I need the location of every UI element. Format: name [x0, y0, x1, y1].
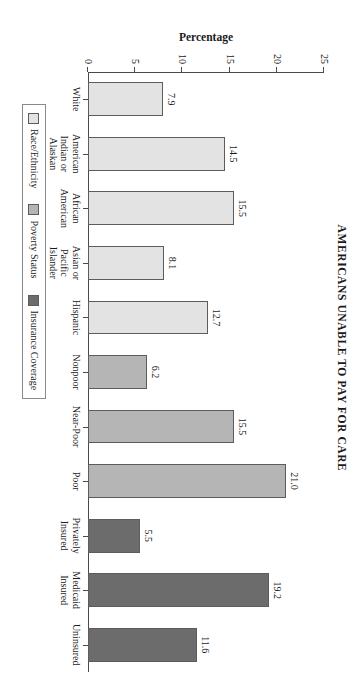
x-axis-tick — [83, 99, 88, 100]
x-axis-tick — [83, 317, 88, 318]
bar-slot[interactable] — [88, 410, 324, 444]
bar-slot[interactable] — [88, 82, 324, 116]
x-axis-category-label: MedicaidInsured — [59, 563, 82, 618]
bar[interactable] — [88, 628, 198, 662]
bar[interactable] — [88, 137, 225, 171]
y-axis-tick-label: 0 — [83, 38, 93, 64]
x-axis-tick — [83, 590, 88, 591]
bar-value-label: 6.2 — [150, 366, 160, 379]
bar[interactable] — [88, 464, 286, 498]
bar-value-label: 15.5 — [237, 200, 247, 218]
x-axis-category-label: Hispanic — [71, 290, 83, 345]
category-label-line: White — [71, 72, 83, 127]
x-axis-category-label: Uninsured — [71, 617, 83, 672]
x-axis-category-label: Asian orPacificIslander — [48, 236, 83, 291]
y-axis-tick-label: 20 — [272, 38, 282, 64]
x-axis-tick — [83, 372, 88, 373]
bar-value-label: 8.1 — [167, 257, 177, 270]
category-label-line: Insured — [59, 508, 71, 563]
x-axis-tick — [83, 536, 88, 537]
legend-item[interactable]: Race/Ethnicity — [29, 113, 40, 188]
bar-value-label: 19.2 — [272, 581, 282, 599]
category-label-line: Uninsured — [71, 617, 83, 672]
plot-area: Percentage 0510152025 7.914.515.58.112.7… — [88, 72, 324, 672]
bar[interactable] — [88, 519, 140, 553]
category-label-line: Alaskan — [48, 127, 60, 182]
x-axis-category-label: PrivatelyInsured — [59, 508, 82, 563]
legend-item[interactable]: Poverty Status — [29, 204, 40, 278]
category-label-line: African — [71, 181, 83, 236]
x-axis-category-label: Poor — [71, 454, 83, 509]
category-label-line: American — [71, 127, 83, 182]
bar[interactable] — [88, 191, 234, 225]
bar-slot[interactable] — [88, 301, 324, 335]
bar-value-label: 12.7 — [211, 309, 221, 327]
x-axis-category-label: White — [71, 72, 83, 127]
legend-label: Insurance Coverage — [29, 311, 39, 391]
x-axis-category-label: Nonpoor — [71, 345, 83, 400]
bar-value-label: 5.5 — [143, 529, 153, 542]
legend-label: Poverty Status — [29, 220, 39, 278]
bar-series: 7.914.515.58.112.76.215.521.05.519.211.6 — [88, 72, 324, 672]
category-label-line: Insured — [59, 563, 71, 618]
category-label-line: Poor — [71, 454, 83, 509]
bar-slot[interactable] — [88, 246, 324, 280]
rotated-figure-wrapper: AMERICANS UNABLE TO PAY FOR CARE Percent… — [0, 0, 350, 696]
category-label-line: Near-Poor — [71, 399, 83, 454]
y-axis-tick-label: 25 — [319, 38, 329, 64]
chart-legend: Race/EthnicityPoverty StatusInsurance Co… — [22, 104, 46, 399]
bar-slot[interactable] — [88, 573, 324, 607]
bar-value-label: 7.9 — [166, 93, 176, 106]
legend-swatch-icon — [29, 113, 40, 124]
category-label-line: Privately — [71, 508, 83, 563]
bar-slot[interactable] — [88, 191, 324, 225]
x-axis-tick — [83, 645, 88, 646]
legend-swatch-icon — [29, 204, 40, 215]
bar-value-label: 11.6 — [201, 636, 211, 653]
x-axis-tick — [83, 154, 88, 155]
bar-value-label: 21.0 — [289, 472, 299, 490]
legend-item[interactable]: Insurance Coverage — [29, 295, 40, 391]
category-label-line: Indian or — [59, 127, 71, 182]
bar[interactable] — [88, 82, 163, 116]
bar[interactable] — [88, 246, 164, 280]
category-label-line: Pacific — [59, 236, 71, 291]
bar[interactable] — [88, 355, 147, 389]
category-label-line: Islander — [48, 236, 60, 291]
legend-label: Race/Ethnicity — [29, 129, 39, 188]
bar[interactable] — [88, 573, 269, 607]
bar[interactable] — [88, 301, 208, 335]
x-axis-category-label: Near-Poor — [71, 399, 83, 454]
x-axis-tick — [83, 263, 88, 264]
bar-value-label: 14.5 — [228, 145, 238, 163]
bar-slot[interactable] — [88, 355, 324, 389]
category-label-line: Asian or — [71, 236, 83, 291]
x-axis-tick — [83, 427, 88, 428]
x-axis-category-label: AfricanAmerican — [59, 181, 82, 236]
bar-chart-figure: AMERICANS UNABLE TO PAY FOR CARE Percent… — [0, 0, 350, 696]
bar[interactable] — [88, 410, 234, 444]
category-label-line: Hispanic — [71, 290, 83, 345]
x-axis-tick — [83, 208, 88, 209]
chart-title: AMERICANS UNABLE TO PAY FOR CARE — [336, 0, 348, 696]
legend-swatch-icon — [29, 295, 40, 306]
x-axis-tick — [83, 481, 88, 482]
bar-slot[interactable] — [88, 519, 324, 553]
y-axis-tick-label: 10 — [177, 38, 187, 64]
bar-value-label: 15.5 — [237, 418, 247, 436]
bar-slot[interactable] — [88, 137, 324, 171]
y-axis-tick-label: 15 — [225, 38, 235, 64]
category-label-line: American — [59, 181, 71, 236]
category-label-line: Medicaid — [71, 563, 83, 618]
y-axis-tick-label: 5 — [130, 38, 140, 64]
category-label-line: Nonpoor — [71, 345, 83, 400]
